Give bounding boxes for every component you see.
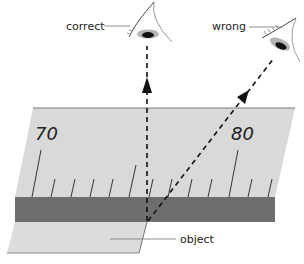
ruler-scale	[15, 108, 295, 197]
wrong-arrowhead	[237, 90, 249, 104]
correct-eye-icon	[127, 2, 172, 42]
object-label: object	[180, 233, 215, 246]
object-band	[15, 197, 275, 222]
wrong-eye-icon	[262, 18, 300, 62]
parallax-diagram: 70 80 correct wrong object	[0, 0, 304, 264]
object-sheet	[7, 222, 147, 253]
wrong-label: wrong	[212, 20, 246, 33]
correct-label: correct	[66, 20, 105, 33]
correct-arrowhead	[142, 77, 152, 93]
scale-label-70: 70	[35, 123, 58, 144]
scale-label-80: 80	[231, 123, 254, 144]
